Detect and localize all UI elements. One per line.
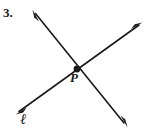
line-l-arrowhead-end — [121, 116, 128, 128]
line-label-l: ℓ — [20, 112, 26, 127]
geometry-figure: □ 3. P ℓ — [0, 0, 148, 136]
line-2-arrowhead-end — [131, 23, 143, 30]
point-label-p: P — [70, 71, 78, 84]
problem-number: 3. — [3, 6, 13, 19]
